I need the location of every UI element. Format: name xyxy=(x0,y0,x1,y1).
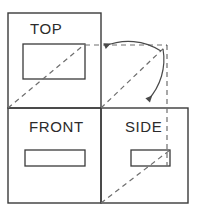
top-view-diagonal xyxy=(8,44,85,108)
front-view-label: FRONT xyxy=(29,118,84,135)
view-labels: TOP FRONT SIDE xyxy=(29,20,162,135)
view-frames xyxy=(8,13,188,203)
arrow-to-side-view xyxy=(148,49,164,100)
orthographic-projection-diagram: TOP FRONT SIDE xyxy=(0,0,199,216)
side-view-label: SIDE xyxy=(125,118,162,135)
view-feature-rects xyxy=(23,44,170,166)
miter-line-45-degree xyxy=(101,45,167,108)
arrow-to-top-view xyxy=(105,41,161,51)
projection-drawing-canvas: TOP FRONT SIDE xyxy=(0,0,199,216)
rotation-arrows xyxy=(105,41,164,100)
front-view-feature-rect xyxy=(25,150,85,166)
top-view-label: TOP xyxy=(30,20,62,37)
side-view-diagonal xyxy=(101,150,170,203)
top-view-feature-rect xyxy=(23,44,85,79)
side-view-feature-rect xyxy=(131,150,170,166)
